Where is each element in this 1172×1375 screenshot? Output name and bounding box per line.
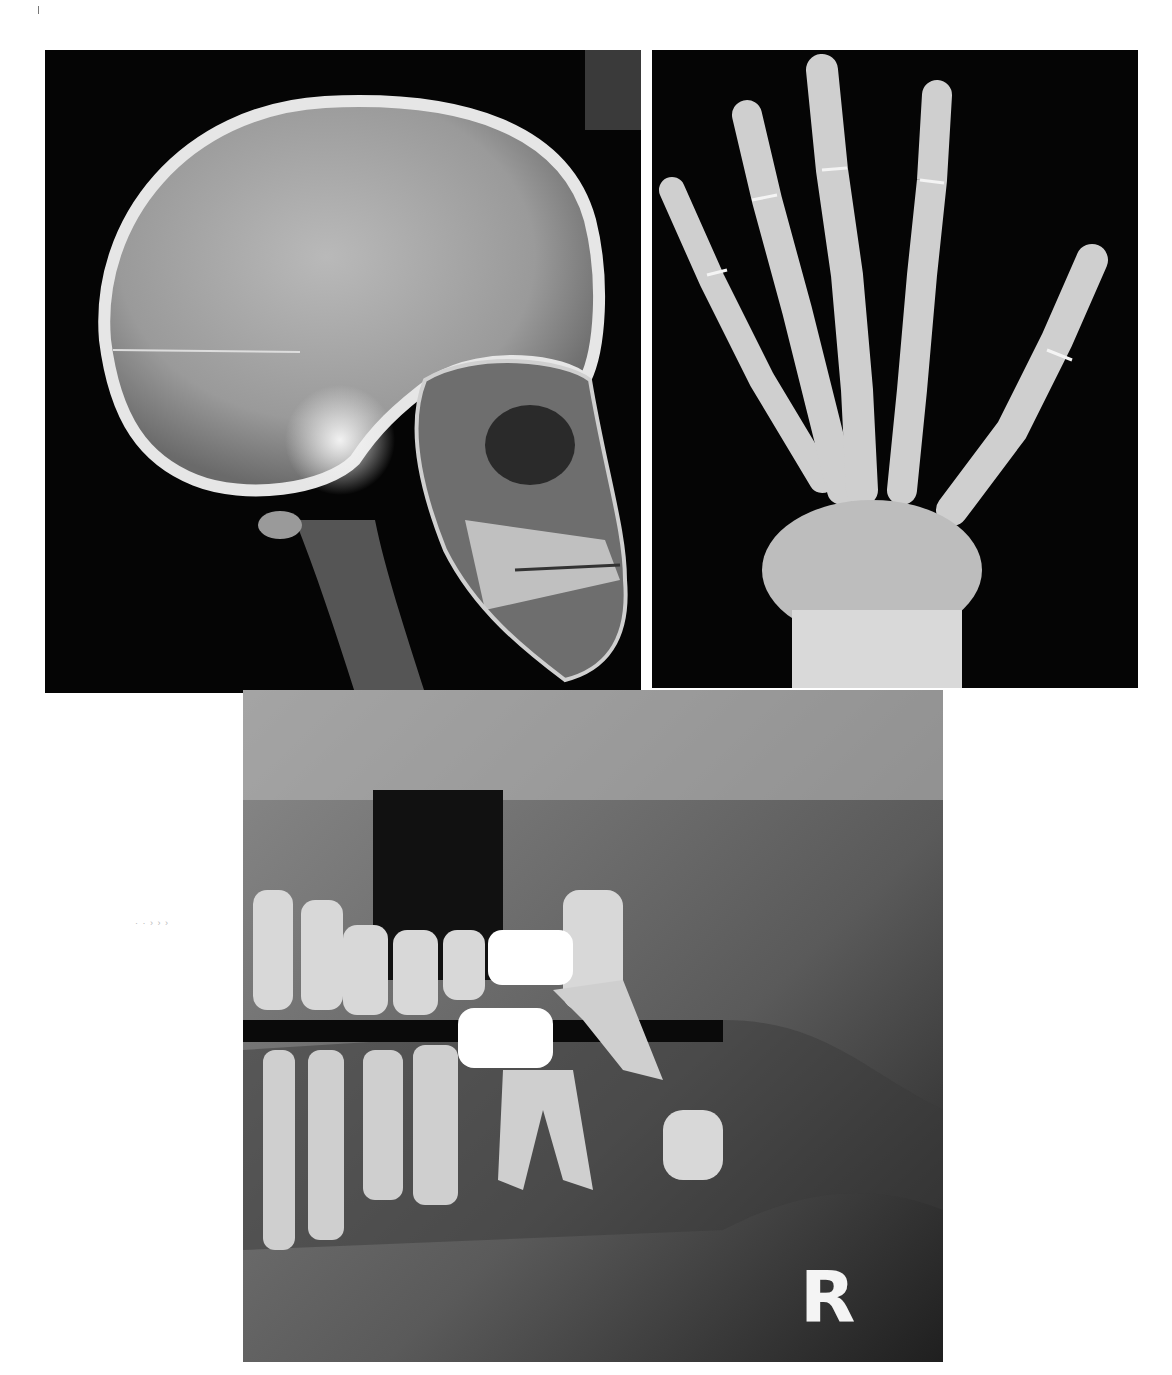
margin-mark: · · › › ›	[135, 918, 169, 928]
page-mark-top	[38, 6, 39, 14]
skull-xray-panel	[45, 50, 641, 693]
hand-xray-panel	[652, 50, 1138, 688]
hand-xray-image	[652, 50, 1138, 688]
side-marker-label: R	[800, 1262, 850, 1332]
skull-xray-image	[45, 50, 641, 693]
